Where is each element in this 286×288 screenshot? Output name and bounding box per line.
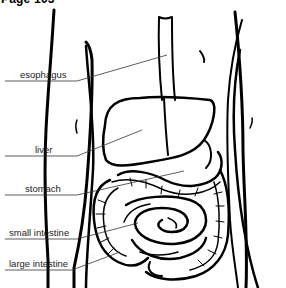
label-stomach: stomach bbox=[25, 183, 61, 194]
esophagus bbox=[159, 17, 175, 100]
small-intestine bbox=[126, 197, 206, 259]
leader-liver bbox=[5, 130, 142, 156]
body-outline-right bbox=[235, 12, 247, 288]
label-esophagus: esophagus bbox=[20, 69, 66, 80]
liver bbox=[103, 97, 214, 166]
label-large-intestine: large intestine bbox=[9, 258, 68, 269]
label-small-intestine: small intestine bbox=[9, 227, 69, 238]
label-liver: liver bbox=[35, 144, 52, 155]
